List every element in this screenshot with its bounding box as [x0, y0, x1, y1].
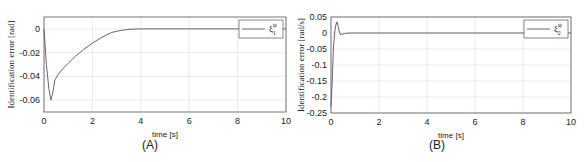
y-tick-label: -0.04 — [19, 71, 40, 81]
chart-panel-a: 02468100-0.02-0.04-0.06time [s]Identific… — [0, 0, 294, 162]
x-tick-label: 2 — [90, 116, 95, 126]
y-tick-label: -0.15 — [306, 76, 327, 86]
y-axis-label: Identification error [rad] — [6, 21, 16, 109]
y-tick-label: -0.25 — [306, 108, 327, 118]
legend: ξψ2 — [524, 20, 568, 38]
y-tick-label: -0.06 — [19, 95, 40, 105]
chart-panel-b: 02468100.050-0.05-0.1-0.15-0.2-0.25time … — [294, 0, 588, 162]
y-tick-label: 0.05 — [309, 12, 327, 22]
y-tick-label: -0.1 — [311, 60, 327, 70]
caption-b: (B) — [429, 138, 445, 152]
y-tick-label: 0 — [35, 24, 40, 34]
x-tick-label: 6 — [472, 117, 477, 127]
x-tick-label: 0 — [328, 117, 333, 127]
y-axis-label: Identification error [rad/s] — [296, 18, 306, 112]
x-tick-label: 0 — [41, 116, 46, 126]
caption-a: (A) — [142, 138, 158, 152]
x-tick-label: 10 — [566, 117, 576, 127]
x-tick-label: 8 — [520, 117, 525, 127]
x-tick-label: 4 — [138, 116, 143, 126]
y-tick-label: -0.02 — [19, 48, 40, 58]
y-tick-label: 0 — [322, 28, 327, 38]
y-tick-label: -0.05 — [306, 44, 327, 54]
x-tick-label: 2 — [376, 117, 381, 127]
legend: ξψ1 — [239, 20, 283, 38]
y-tick-label: -0.2 — [311, 92, 327, 102]
x-tick-label: 10 — [281, 116, 291, 126]
x-tick-label: 4 — [424, 117, 429, 127]
x-tick-label: 8 — [235, 116, 240, 126]
x-tick-label: 6 — [187, 116, 192, 126]
